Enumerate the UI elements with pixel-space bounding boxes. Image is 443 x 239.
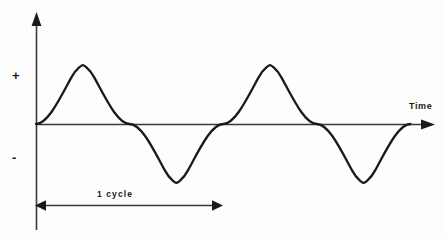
cycle-arrow-right-head-icon [212, 200, 223, 210]
sine-wave-figure: + - Time 1 cycle [0, 0, 443, 239]
x-axis-arrowhead-icon [421, 120, 435, 130]
one-cycle-label: 1 cycle [97, 190, 133, 199]
negative-amplitude-label: - [12, 151, 16, 164]
figure-canvas [0, 0, 443, 239]
y-axis [32, 12, 42, 230]
time-axis-label: Time [409, 102, 432, 111]
x-axis [36, 120, 435, 130]
positive-amplitude-label: + [12, 69, 20, 82]
cycle-dimension-arrow [35, 200, 223, 210]
y-axis-arrowhead-icon [32, 12, 42, 26]
